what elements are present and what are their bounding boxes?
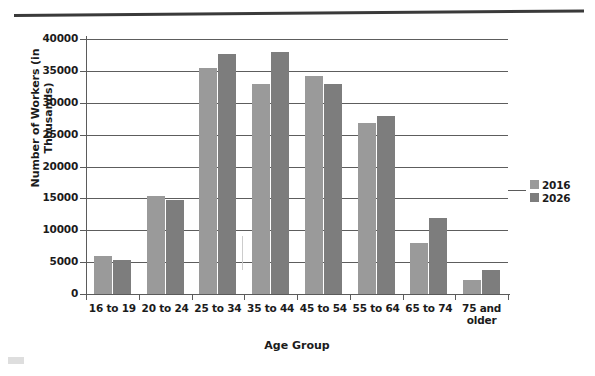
bar-2026-16-to-19 <box>113 260 131 294</box>
bar-2026-65-to-74 <box>429 218 447 295</box>
legend-label-2016: 2016 <box>542 179 570 191</box>
x-axis-tick <box>192 294 193 300</box>
x-axis-title: Age Group <box>86 339 508 352</box>
bar-chart-figure: 0500010000150002000025000300003500040000… <box>0 0 595 376</box>
scan-artifact-speck <box>8 357 24 364</box>
bar-2016-75-and-older <box>463 280 481 294</box>
scan-artifact-streak <box>242 236 243 270</box>
x-axis-tick <box>350 294 351 300</box>
bar-2016-45-to-54 <box>305 76 323 294</box>
x-axis-tick <box>139 294 140 300</box>
legend-leader-line <box>508 190 526 191</box>
bar-2016-16-to-19 <box>94 256 112 294</box>
bar-2026-35-to-44 <box>271 52 289 294</box>
x-axis-tick <box>455 294 456 300</box>
x-axis-tick <box>86 294 87 300</box>
bar-2016-25-to-34 <box>199 68 217 294</box>
y-axis-tick-label: 0 <box>18 288 78 299</box>
bar-2016-35-to-44 <box>252 84 270 294</box>
x-axis-tick <box>508 294 509 300</box>
bar-2026-20-to-24 <box>166 200 184 294</box>
bars-layer <box>86 39 508 294</box>
bar-2026-75-and-older <box>482 270 500 294</box>
bar-2026-55-to-64 <box>377 116 395 295</box>
legend-item-2016[interactable]: 2016 <box>530 178 570 191</box>
x-axis-tick <box>244 294 245 300</box>
bar-2016-55-to-64 <box>358 123 376 294</box>
bar-2016-65-to-74 <box>410 243 428 294</box>
bar-2026-45-to-54 <box>324 84 342 294</box>
chart-legend: 2016 2026 <box>530 178 570 204</box>
y-axis-tick-label: 5000 <box>18 256 78 267</box>
y-axis-tick-label: 10000 <box>18 224 78 235</box>
legend-label-2026: 2026 <box>542 192 570 204</box>
legend-swatch-icon-2016 <box>530 180 539 189</box>
page-top-rule <box>14 10 584 17</box>
x-axis-tick <box>403 294 404 300</box>
x-axis-tick <box>297 294 298 300</box>
bar-2016-20-to-24 <box>147 196 165 294</box>
x-axis-tick-label: 75 and older <box>451 303 513 326</box>
bar-2026-25-to-34 <box>218 54 236 294</box>
legend-item-2026[interactable]: 2026 <box>530 191 570 204</box>
legend-swatch-icon-2026 <box>530 193 539 202</box>
y-axis-title: Number of Workers (in Thousands) <box>29 13 55 223</box>
